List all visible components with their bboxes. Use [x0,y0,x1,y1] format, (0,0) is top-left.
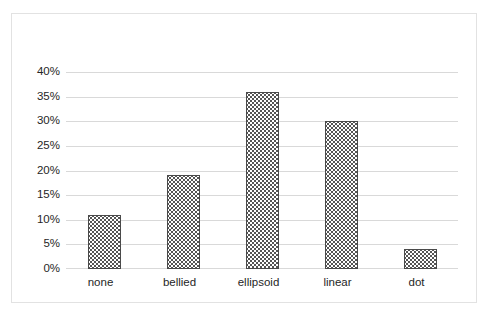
x-axis-tick-label-linear: linear [303,277,372,289]
x-axis-tick-label-dot: dot [382,277,451,289]
y-axis-tick-label: 10% [18,214,60,226]
y-axis-tick-label: 0% [18,263,60,275]
y-axis-tick-label: 30% [18,116,60,128]
x-axis-tick-label-bellied: bellied [145,277,214,289]
x-axis-tick-label-none: none [66,277,135,289]
bar-bellied[interactable] [167,175,200,269]
y-axis-tick-label: 20% [18,165,60,177]
bar-none[interactable] [88,215,121,269]
plot-area [66,72,458,269]
gridline [66,72,458,73]
y-axis-tick-label: 15% [18,189,60,201]
y-axis: 40% 35% 30% 25% 20% 15% 10% 5% 0% [16,72,60,269]
y-axis-tick-label: 25% [18,140,60,152]
bar-dot[interactable] [404,249,437,269]
y-axis-tick-label: 35% [18,91,60,103]
x-axis-tick-label-ellipsoid: ellipsoid [224,277,293,289]
chart-frame: 40% 35% 30% 25% 20% 15% 10% 5% 0% [11,13,477,303]
bar-linear[interactable] [325,121,358,269]
bar-ellipsoid[interactable] [246,92,279,269]
y-axis-tick-label: 5% [18,239,60,251]
y-axis-tick-label: 40% [18,66,60,78]
